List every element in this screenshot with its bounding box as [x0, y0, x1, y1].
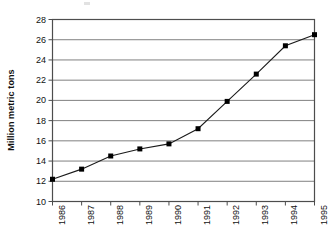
- data-point-marker: [137, 146, 142, 151]
- data-point-marker: [225, 99, 230, 104]
- data-point-marker: [196, 126, 201, 131]
- data-point-marker: [108, 154, 113, 159]
- data-point-marker: [312, 32, 317, 37]
- data-point-marker: [50, 177, 55, 182]
- gridlines: [49, 20, 315, 206]
- plot-frame: [53, 20, 315, 202]
- data-point-marker: [283, 43, 288, 48]
- data-line: [53, 35, 315, 180]
- data-point-marker: [254, 72, 259, 77]
- data-point-marker: [166, 141, 171, 146]
- data-point-marker: [79, 167, 84, 172]
